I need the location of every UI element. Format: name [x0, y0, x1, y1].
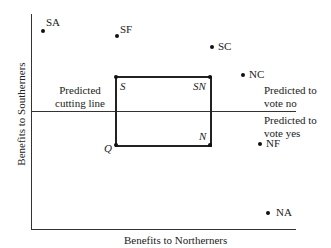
corner-s-label: S — [120, 80, 126, 92]
corner-n-dot — [208, 143, 212, 147]
corner-sn-dot — [208, 75, 212, 79]
point-nc-label: NC — [249, 68, 264, 80]
corner-sn-label: SN — [193, 80, 206, 92]
y-axis — [31, 14, 32, 230]
point-sc-label: SC — [218, 40, 231, 52]
point-sf-dot — [115, 34, 119, 38]
point-na-dot — [266, 211, 270, 215]
corner-q-label: Q — [104, 142, 112, 154]
point-nc-dot — [241, 73, 245, 77]
point-sa-dot — [41, 29, 45, 33]
point-sf-label: SF — [120, 23, 132, 35]
region-vote-no-label: Predicted to vote no — [264, 84, 317, 110]
corner-q-dot — [114, 143, 118, 147]
point-sc-dot — [210, 45, 214, 49]
corner-n-label: N — [199, 130, 206, 142]
x-axis — [31, 229, 296, 230]
point-nf-label: NF — [266, 137, 280, 149]
y-axis-label: Benefits to Southerners — [15, 49, 27, 179]
corner-s-dot — [114, 75, 118, 79]
point-sa-label: SA — [46, 16, 60, 28]
point-nf-dot — [258, 142, 262, 146]
cutting-line-label: Predicted cutting line — [42, 84, 118, 110]
x-axis-label: Benefits to Northerners — [124, 234, 227, 246]
point-na-label: NA — [276, 206, 292, 218]
